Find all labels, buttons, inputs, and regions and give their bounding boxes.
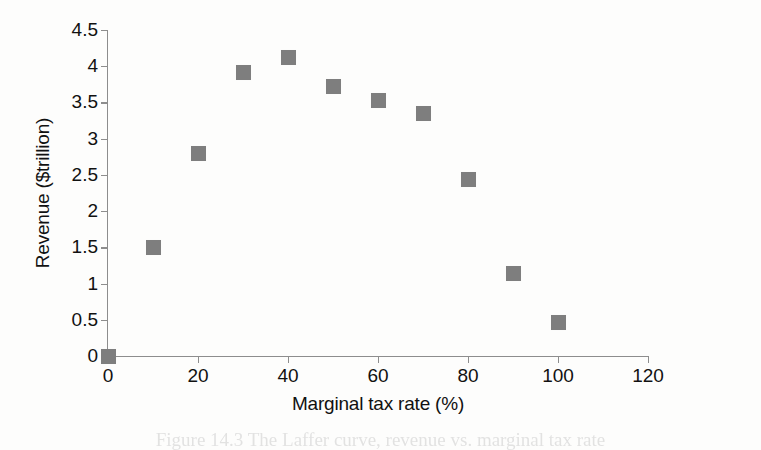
y-tick: [101, 30, 108, 31]
figure-caption: Figure 14.3 The Laffer curve, revenue vs…: [0, 429, 761, 450]
y-tick: [101, 284, 108, 285]
data-point: [506, 266, 521, 281]
data-point: [101, 349, 116, 364]
data-point: [416, 106, 431, 121]
y-axis-title: Revenue ($trillion): [32, 43, 54, 343]
plot-area: 00.511.522.533.544.5 020406080100120: [108, 30, 648, 356]
data-point: [191, 146, 206, 161]
y-tick-label: 3: [46, 129, 98, 148]
x-tick-label: 60: [348, 366, 408, 385]
y-tick: [101, 139, 108, 140]
x-tick-label: 80: [438, 366, 498, 385]
x-tick-label: 0: [78, 366, 138, 385]
x-tick-label: 20: [168, 366, 228, 385]
data-point: [281, 50, 296, 65]
y-tick-label: 2: [46, 201, 98, 220]
data-point: [461, 172, 476, 187]
x-tick: [558, 356, 559, 363]
y-tick: [101, 247, 108, 248]
y-axis-line: [107, 30, 108, 356]
x-tick: [198, 356, 199, 363]
data-point: [371, 93, 386, 108]
x-tick: [468, 356, 469, 363]
x-axis-title: Marginal tax rate (%): [108, 393, 648, 415]
data-point: [326, 79, 341, 94]
y-tick-label: 3.5: [46, 92, 98, 111]
y-tick: [101, 211, 108, 212]
x-tick-label: 120: [618, 366, 678, 385]
y-tick-label: 1.5: [46, 237, 98, 256]
y-tick: [101, 175, 108, 176]
y-tick-label: 4: [46, 56, 98, 75]
chart-figure: Revenue ($trillion) 00.511.522.533.544.5…: [0, 0, 761, 450]
data-point: [551, 315, 566, 330]
y-tick: [101, 102, 108, 103]
x-tick-label: 100: [528, 366, 588, 385]
x-tick: [288, 356, 289, 363]
x-tick-label: 40: [258, 366, 318, 385]
y-tick-label: 0: [46, 346, 98, 365]
y-tick-label: 0.5: [46, 310, 98, 329]
data-point: [236, 65, 251, 80]
x-tick: [378, 356, 379, 363]
y-tick: [101, 320, 108, 321]
x-tick: [648, 356, 649, 363]
y-tick: [101, 66, 108, 67]
y-tick-label: 1: [46, 274, 98, 293]
y-tick-label: 4.5: [46, 20, 98, 39]
data-point: [146, 240, 161, 255]
y-tick-label: 2.5: [46, 165, 98, 184]
